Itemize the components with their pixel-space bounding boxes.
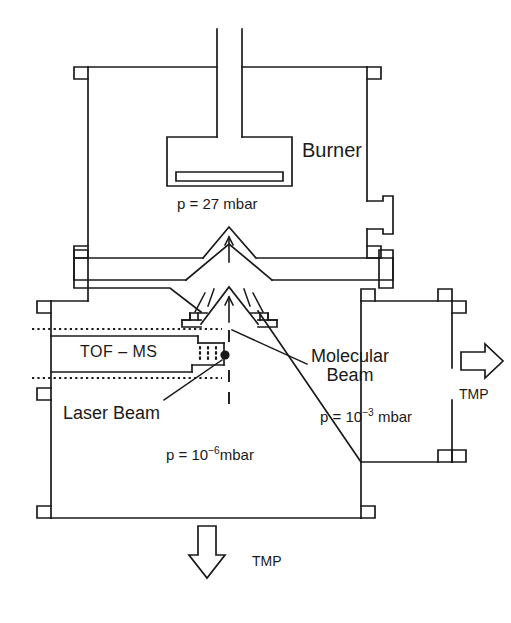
- diagram-canvas: Burner p = 27 mbar TOF – MS Molecular Be…: [0, 0, 511, 623]
- laser-beam-label: Laser Beam: [63, 404, 160, 423]
- upper-chamber-side-port: [367, 196, 393, 234]
- flow-arrow-nozzle-upper: [225, 237, 233, 262]
- lower-chamber-flange-mid-left: [37, 388, 51, 400]
- lower-chamber-flange-top-left: [37, 301, 51, 313]
- laser-molecular-beam-interaction-point: [220, 350, 229, 359]
- tmp-pump-arrow-right: [461, 344, 503, 378]
- pressure-detection-chamber: p = 10−6mbar: [166, 446, 254, 463]
- molecular-beam-label-line2: Beam: [311, 366, 389, 385]
- pressure-burner-chamber: p = 27 mbar: [177, 196, 257, 212]
- burner-stem-tube: [217, 29, 242, 137]
- right-chamber-flange-top-left: [361, 289, 375, 301]
- tof-ms-label: TOF – MS: [80, 344, 158, 361]
- pressure-burner-text: p = 27 mbar: [177, 195, 257, 212]
- flow-arrow-nozzle-lower: [225, 297, 233, 322]
- upper-chamber-flange-top-left: [74, 67, 88, 79]
- nozzle-plate-flange-left: [74, 250, 88, 288]
- burner-surface-slot: [176, 172, 283, 181]
- right-chamber-flange-top-right: [438, 289, 452, 301]
- lower-chamber-flange-bottom-left: [37, 506, 51, 518]
- leader-line-molecular-beam: [232, 330, 307, 364]
- pressure-detection-prefix: p = 10: [166, 446, 208, 463]
- pressure-detection-exponent: −6: [208, 445, 220, 456]
- pressure-intermediate-unit: mbar: [374, 408, 412, 425]
- upper-chamber-flange-top-right: [367, 67, 381, 79]
- leader-line-laser-beam: [164, 360, 222, 400]
- upper-chamber-flange-bottom-left: [74, 246, 88, 258]
- molecular-beam-label: Molecular Beam: [311, 347, 389, 385]
- pressure-intermediate-prefix: p = 10: [320, 408, 362, 425]
- pressure-intermediate-exponent: −3: [362, 407, 374, 418]
- lower-chamber-flange-bottom-right: [361, 506, 375, 518]
- pressure-intermediate-chamber: p = 10−3 mbar: [320, 408, 412, 425]
- burner-label: Burner: [302, 140, 362, 161]
- molecular-beam-label-line1: Molecular: [311, 347, 389, 366]
- nozzle-flange-plate: [74, 258, 393, 280]
- pressure-detection-unit: mbar: [220, 446, 254, 463]
- tmp-bottom-label: TMP: [252, 554, 282, 569]
- burner-head-block: [167, 137, 292, 186]
- tmp-pump-arrow-bottom: [189, 526, 225, 578]
- right-chamber-flange-outer-top: [452, 301, 466, 313]
- tmp-right-label: TMP: [459, 387, 489, 402]
- apparatus-schematic-svg: [0, 0, 511, 623]
- right-chamber-flange-outer-bottom: [452, 450, 466, 462]
- right-chamber-flange-bottom-right: [438, 450, 452, 462]
- ion-extraction-grid: [200, 347, 216, 362]
